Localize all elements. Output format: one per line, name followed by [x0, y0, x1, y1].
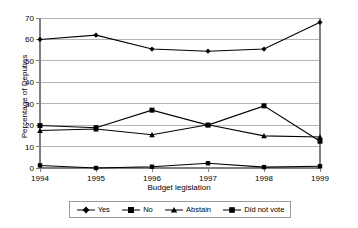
x-axis-tick-label: 1999	[311, 174, 329, 183]
data-point-marker	[261, 46, 266, 51]
data-point-marker	[262, 165, 266, 169]
legend-marker-triangle-icon	[164, 205, 184, 215]
series-line	[40, 22, 320, 51]
chart-legend: Yes No Abstain Did not vote	[69, 201, 291, 218]
legend-label-did-not-vote: Did not vote	[244, 206, 284, 214]
data-point-marker	[149, 46, 154, 51]
line-chart: 010203040506070199419951996199719981999 …	[0, 0, 358, 228]
data-point-marker	[317, 20, 322, 25]
data-point-marker	[150, 108, 155, 113]
legend-item-no: No	[121, 205, 153, 215]
y-axis-tick-label: 0	[30, 164, 35, 173]
data-point-marker	[94, 166, 98, 170]
series-no	[38, 103, 323, 143]
legend-item-abstain: Abstain	[164, 205, 211, 215]
legend-marker-square-small-icon	[222, 205, 242, 215]
data-point-marker	[318, 164, 322, 168]
plot-area: 010203040506070199419951996199719981999	[0, 0, 358, 228]
x-axis-tick-label: 1996	[143, 174, 161, 183]
data-point-marker	[37, 37, 42, 42]
data-point-marker	[38, 163, 42, 167]
series-did-not-vote	[38, 161, 322, 170]
legend-label-no: No	[143, 206, 153, 214]
series-line	[40, 163, 320, 168]
series-abstain	[37, 122, 323, 139]
legend-label-abstain: Abstain	[186, 206, 211, 214]
legend-label-yes: Yes	[98, 206, 110, 214]
legend-marker-diamond-icon	[76, 205, 96, 215]
series-line	[40, 125, 320, 137]
x-axis-tick-label: 1994	[31, 174, 49, 183]
x-axis-tick-label: 1998	[255, 174, 273, 183]
series-yes	[37, 20, 322, 54]
x-axis-tick-label: 1995	[87, 174, 105, 183]
legend-item-did-not-vote: Did not vote	[222, 205, 284, 215]
data-point-marker	[38, 123, 43, 128]
x-axis-title: Budget legislation	[0, 183, 358, 192]
data-point-marker	[93, 33, 98, 38]
data-point-marker	[318, 139, 323, 144]
data-point-marker	[150, 165, 154, 169]
data-point-marker	[205, 49, 210, 54]
x-axis-tick-label: 1997	[199, 174, 217, 183]
data-point-marker	[206, 161, 210, 165]
y-axis-tick-label: 70	[25, 14, 34, 23]
y-axis-title: Percentage of Deputies	[20, 42, 29, 152]
legend-item-yes: Yes	[76, 205, 110, 215]
data-point-marker	[262, 103, 267, 108]
legend-marker-square-icon	[121, 205, 141, 215]
